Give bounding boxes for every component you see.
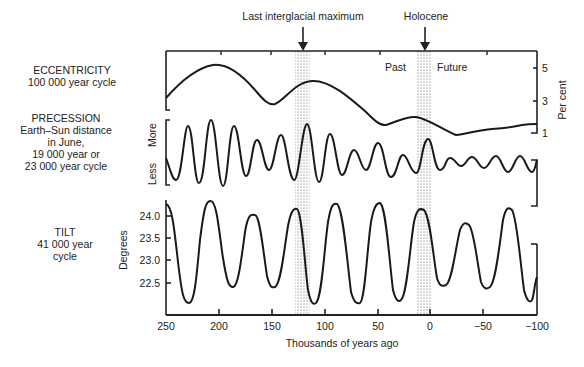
precession-more-label: More	[146, 123, 158, 147]
tilt-axis-label: Degrees	[117, 230, 129, 270]
eccentricity-curve	[166, 65, 537, 135]
interglacial-annotation: Last interglacial maximum	[242, 10, 364, 22]
ecc-axis-label: Per cent	[556, 80, 568, 119]
precession-left-bracket	[166, 120, 170, 185]
x-tick-minus-50: −50	[474, 320, 492, 332]
tilt-tick-23-5: 23.5	[140, 232, 161, 244]
x-tick-100: 100	[316, 320, 334, 332]
holocene-annotation: Holocene	[404, 10, 449, 22]
x-tick-200: 200	[210, 320, 228, 332]
eccentricity-right-axis	[531, 51, 537, 133]
x-tick-150: 150	[263, 320, 281, 332]
precession-less-label: Less	[146, 163, 158, 185]
future-label: Future	[437, 61, 468, 73]
tilt-tick-22-5: 22.5	[140, 277, 161, 289]
holocene-band	[417, 51, 432, 315]
orbital-cycles-chart: Last interglacial maximum Holocene Past …	[0, 0, 584, 367]
ecc-tick-5: 5	[542, 62, 548, 74]
tilt-tick-24-0: 24.0	[140, 210, 161, 222]
holocene-arrow-icon	[420, 42, 430, 51]
ecc-tick-3: 3	[542, 95, 548, 107]
ecc-tick-1: 1	[542, 127, 548, 139]
past-label: Past	[385, 61, 406, 73]
x-axis-label: Thousands of years ago	[286, 337, 399, 349]
x-tick-0: 0	[427, 320, 433, 332]
eccentricity-left-bracket	[166, 51, 170, 110]
interglacial-arrow-icon	[298, 42, 308, 51]
x-tick-minus-100: −100	[525, 320, 549, 332]
x-tick-250: 250	[157, 320, 175, 332]
interglacial-band	[295, 51, 310, 315]
tilt-curve	[166, 201, 537, 304]
tilt-tick-23-0: 23.0	[140, 254, 161, 266]
x-tick-50: 50	[372, 320, 384, 332]
